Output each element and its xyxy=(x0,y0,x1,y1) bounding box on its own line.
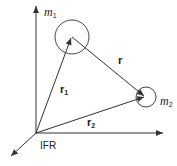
diagram-graphics xyxy=(0,0,177,166)
body-m2-circle xyxy=(136,87,156,107)
label-r1: r1 xyxy=(60,84,68,98)
two-body-diagram: m1 m2 r r1 r2 IFR xyxy=(0,0,177,166)
label-ifr: IFR xyxy=(40,140,56,151)
label-m1: m1 xyxy=(44,7,57,21)
label-m2: m2 xyxy=(160,96,173,110)
z-axis xyxy=(11,133,36,156)
label-r: r xyxy=(118,55,122,66)
vector-r xyxy=(72,37,144,96)
label-r2: r2 xyxy=(87,117,95,131)
